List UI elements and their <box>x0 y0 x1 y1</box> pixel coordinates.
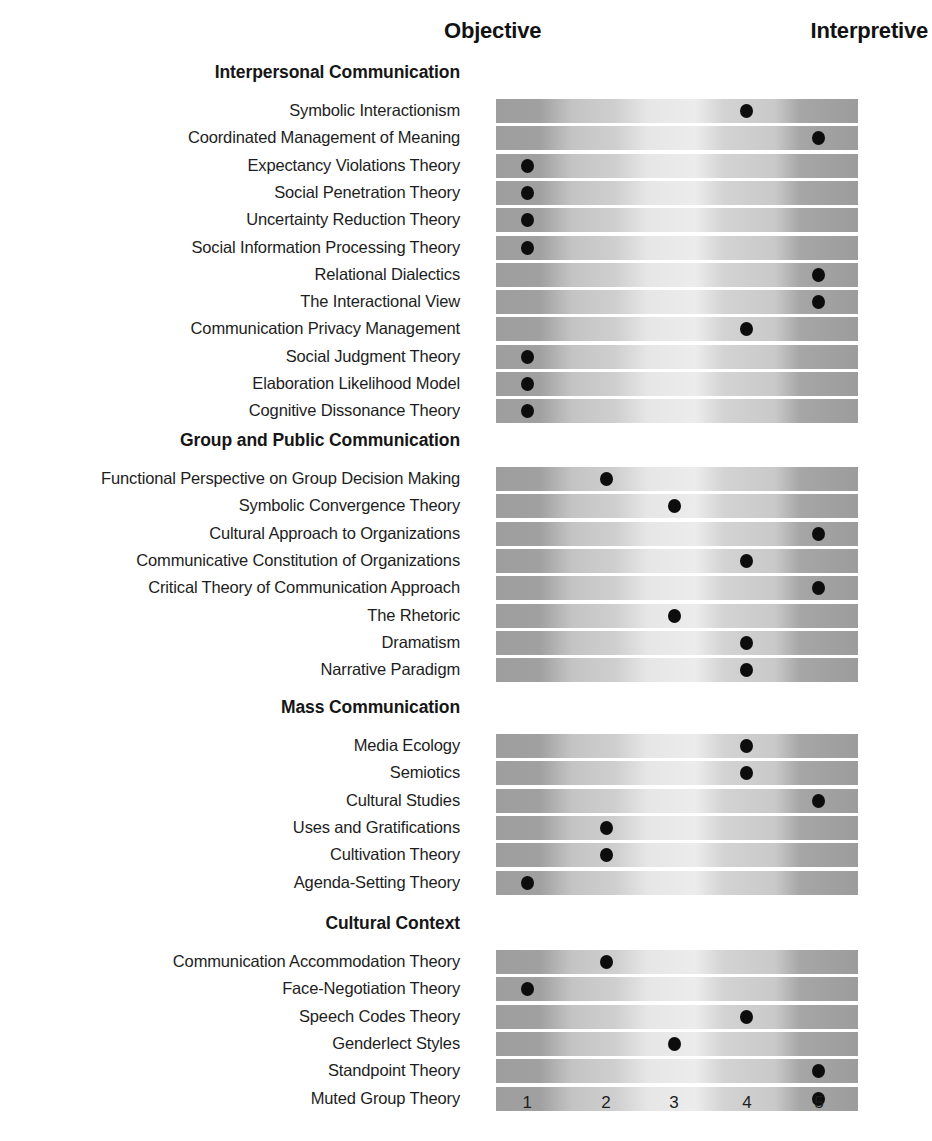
theory-label: Expectancy Violations Theory <box>247 153 460 177</box>
theory-row: Semiotics <box>0 761 932 785</box>
objective-interpretive-gradient-band <box>496 154 858 178</box>
theory-label: The Rhetoric <box>367 603 460 627</box>
theory-row: Relational Dialectics <box>0 263 932 287</box>
theory-placement-dot <box>740 766 753 780</box>
theory-placement-dot <box>521 159 534 173</box>
theory-label: Social Information Processing Theory <box>191 235 460 259</box>
theory-label: Cultural Studies <box>346 788 460 812</box>
objective-interpretive-gradient-band <box>496 789 858 813</box>
theory-placement-dot <box>812 581 825 595</box>
theory-row: Social Penetration Theory <box>0 181 932 205</box>
theory-label: Muted Group Theory <box>311 1086 460 1110</box>
theory-row: Elaboration Likelihood Model <box>0 372 932 396</box>
theory-label: Social Penetration Theory <box>274 180 460 204</box>
objective-interpretive-gradient-band <box>496 494 858 518</box>
theory-placement-dot <box>521 350 534 364</box>
theory-placement-dot <box>812 527 825 541</box>
theory-placement-dot <box>668 609 681 623</box>
theory-placement-dot <box>521 186 534 200</box>
theory-label: The Interactional View <box>300 289 460 313</box>
theory-label: Uses and Gratifications <box>293 815 460 839</box>
objective-interpretive-gradient-band <box>496 549 858 573</box>
theory-row: Social Judgment Theory <box>0 345 932 369</box>
theory-label: Uncertainty Reduction Theory <box>246 207 460 231</box>
theory-row: Uncertainty Reduction Theory <box>0 208 932 232</box>
objective-interpretive-gradient-band <box>496 631 858 655</box>
theory-label: Communication Accommodation Theory <box>173 949 460 973</box>
objective-interpretive-gradient-band <box>496 181 858 205</box>
theory-label: Cognitive Dissonance Theory <box>249 398 460 422</box>
theory-label: Standpoint Theory <box>328 1058 460 1082</box>
theory-label: Communication Privacy Management <box>191 316 460 340</box>
theory-label: Elaboration Likelihood Model <box>252 371 460 395</box>
theory-placement-dot <box>521 982 534 996</box>
theory-placement-dot <box>812 794 825 808</box>
theory-label: Semiotics <box>390 760 460 784</box>
theory-label: Relational Dialectics <box>315 262 460 286</box>
objective-interpretive-gradient-band <box>496 263 858 287</box>
theory-placement-dot <box>740 663 753 677</box>
theory-row: Face-Negotiation Theory <box>0 977 932 1001</box>
theory-row: Communication Accommodation Theory <box>0 950 932 974</box>
theory-label: Coordinated Management of Meaning <box>188 125 460 149</box>
theory-label: Symbolic Convergence Theory <box>239 493 460 517</box>
theory-label: Critical Theory of Communication Approac… <box>148 575 460 599</box>
theory-row: Social Information Processing Theory <box>0 236 932 260</box>
theory-placement-dot <box>600 955 613 969</box>
theory-row: Cultural Studies <box>0 789 932 813</box>
objective-interpretive-gradient-band <box>496 372 858 396</box>
theory-placement-dot <box>812 1064 825 1078</box>
scale-tick-3: 3 <box>654 1093 694 1113</box>
theory-row: Cognitive Dissonance Theory <box>0 399 932 423</box>
theory-row: Dramatism <box>0 631 932 655</box>
theory-placement-dot <box>521 213 534 227</box>
theory-label: Social Judgment Theory <box>286 344 460 368</box>
objective-interpretive-gradient-band <box>496 843 858 867</box>
scale-tick-1: 1 <box>507 1093 547 1113</box>
theory-row: Genderlect Styles <box>0 1032 932 1056</box>
objective-interpretive-gradient-band <box>496 604 858 628</box>
theory-row: Media Ecology <box>0 734 932 758</box>
theory-row: Expectancy Violations Theory <box>0 154 932 178</box>
theory-row: Functional Perspective on Group Decision… <box>0 467 932 491</box>
theory-row: Uses and Gratifications <box>0 816 932 840</box>
scale-tick-2: 2 <box>586 1093 626 1113</box>
theory-placement-dot <box>521 241 534 255</box>
objective-interpretive-gradient-band <box>496 950 858 974</box>
scale-tick-4: 4 <box>727 1093 767 1113</box>
theory-placement-dot <box>740 322 753 336</box>
objective-interpretive-gradient-band <box>496 816 858 840</box>
theory-label: Cultivation Theory <box>330 842 460 866</box>
theory-placement-chart: Interpersonal CommunicationSymbolic Inte… <box>0 0 932 1141</box>
theory-placement-dot <box>740 1010 753 1024</box>
objective-interpretive-gradient-band <box>496 467 858 491</box>
objective-interpretive-gradient-band <box>496 734 858 758</box>
section-title: Group and Public Communication <box>180 430 460 451</box>
objective-interpretive-gradient-band <box>496 126 858 150</box>
scale-tick-5: 5 <box>799 1093 839 1113</box>
objective-interpretive-gradient-band <box>496 576 858 600</box>
objective-interpretive-gradient-band <box>496 345 858 369</box>
theory-row: Narrative Paradigm <box>0 658 932 682</box>
theory-placement-dot <box>600 821 613 835</box>
theory-label: Agenda-Setting Theory <box>294 870 460 894</box>
objective-interpretive-gradient-band <box>496 208 858 232</box>
objective-interpretive-gradient-band <box>496 1005 858 1029</box>
objective-interpretive-gradient-band <box>496 1059 858 1083</box>
objective-interpretive-gradient-band <box>496 761 858 785</box>
objective-interpretive-gradient-band <box>496 658 858 682</box>
theory-placement-dot <box>521 377 534 391</box>
theory-label: Cultural Approach to Organizations <box>209 521 460 545</box>
theory-label: Symbolic Interactionism <box>289 98 460 122</box>
objective-interpretive-gradient-band <box>496 1032 858 1056</box>
objective-interpretive-gradient-band <box>496 522 858 546</box>
theory-placement-dot <box>812 268 825 282</box>
theory-placement-dot <box>600 848 613 862</box>
theory-placement-dot <box>812 295 825 309</box>
theory-placement-dot <box>740 104 753 118</box>
theory-placement-dot <box>740 739 753 753</box>
theory-row: Cultural Approach to Organizations <box>0 522 932 546</box>
objective-interpretive-gradient-band <box>496 317 858 341</box>
theory-placement-dot <box>600 472 613 486</box>
objective-interpretive-gradient-band <box>496 977 858 1001</box>
